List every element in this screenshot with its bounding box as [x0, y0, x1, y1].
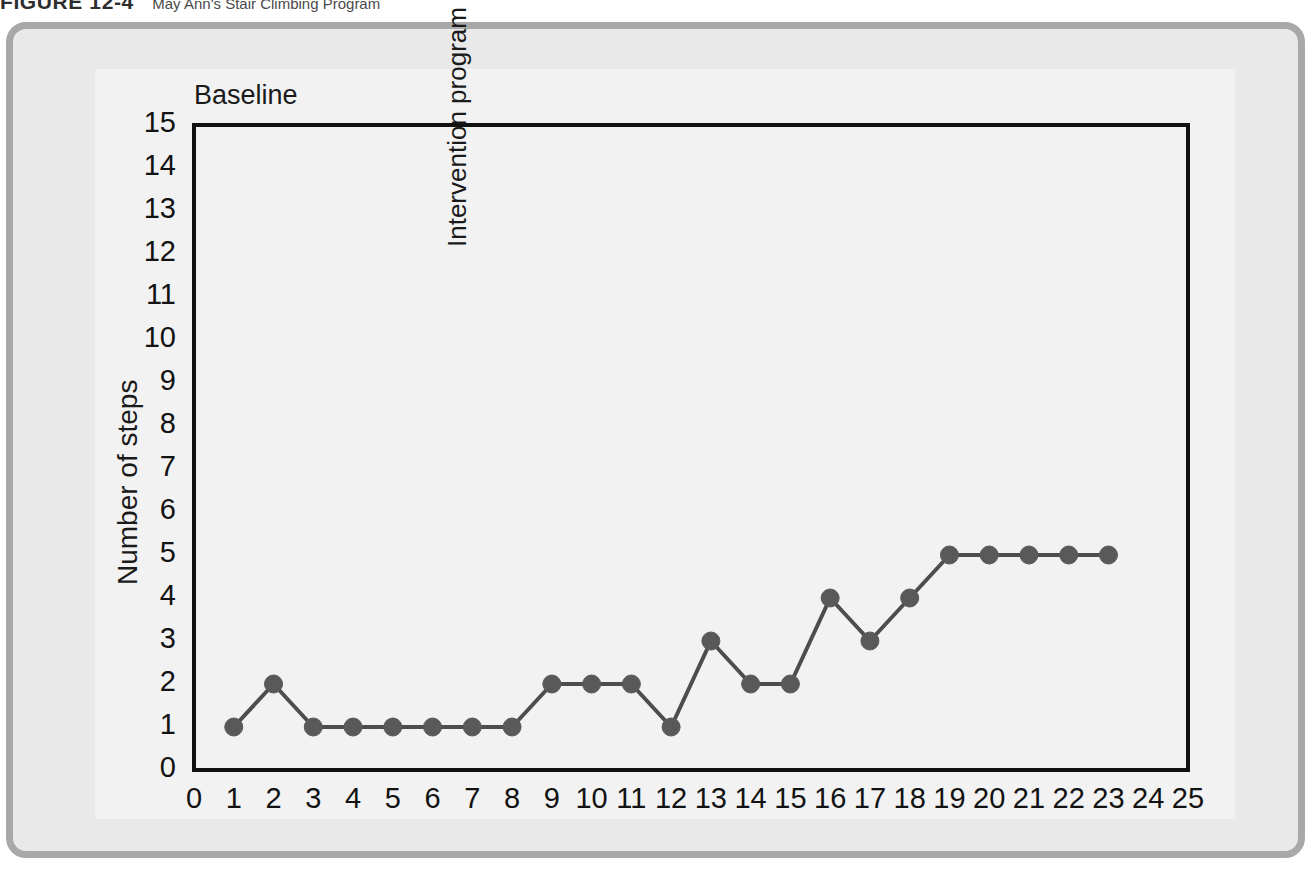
y-axis-tick-label: 2 — [118, 665, 176, 698]
data-point — [384, 718, 402, 736]
y-axis-tick-label: 12 — [118, 235, 176, 268]
y-axis-tick-label: 1 — [118, 708, 176, 741]
y-axis-tick-label: 10 — [118, 321, 176, 354]
data-point — [702, 632, 720, 650]
y-axis-tick-label: 9 — [118, 364, 176, 397]
baseline-annotation: Baseline — [194, 80, 298, 111]
y-axis-tick-label: 13 — [118, 192, 176, 225]
y-axis-tick-label: 0 — [118, 751, 176, 784]
data-point — [742, 675, 760, 693]
x-axis-tick-label: 25 — [1163, 782, 1213, 815]
data-point — [304, 718, 322, 736]
data-point — [980, 546, 998, 564]
data-point — [901, 589, 919, 607]
y-axis-tick-label: 15 — [118, 106, 176, 139]
y-axis-tick-label: 8 — [118, 407, 176, 440]
y-axis-tick-label: 7 — [118, 450, 176, 483]
data-point — [781, 675, 799, 693]
data-point — [344, 718, 362, 736]
y-axis-tick-label: 4 — [118, 579, 176, 612]
chart-canvas — [0, 0, 1312, 892]
y-axis-tick-label: 5 — [118, 536, 176, 569]
plot-frame — [194, 125, 1188, 770]
data-point — [821, 589, 839, 607]
data-point — [1060, 546, 1078, 564]
data-point — [225, 718, 243, 736]
y-axis-tick-label: 11 — [118, 278, 176, 311]
data-point — [543, 675, 561, 693]
line-chart: Baseline Intervention program begins Num… — [0, 0, 1312, 892]
data-point — [940, 546, 958, 564]
data-point — [583, 675, 601, 693]
y-axis-tick-label: 6 — [118, 493, 176, 526]
data-point — [1020, 546, 1038, 564]
data-point — [861, 632, 879, 650]
data-point — [265, 675, 283, 693]
data-line — [234, 555, 1109, 727]
data-point — [503, 718, 521, 736]
data-point — [424, 718, 442, 736]
data-point — [1099, 546, 1117, 564]
data-markers — [225, 546, 1118, 736]
y-axis-tick-label: 14 — [118, 149, 176, 182]
data-point — [662, 718, 680, 736]
y-axis-tick-label: 3 — [118, 622, 176, 655]
data-point — [622, 675, 640, 693]
intervention-divider-annotation: Intervention program begins — [442, 0, 473, 247]
data-point — [463, 718, 481, 736]
